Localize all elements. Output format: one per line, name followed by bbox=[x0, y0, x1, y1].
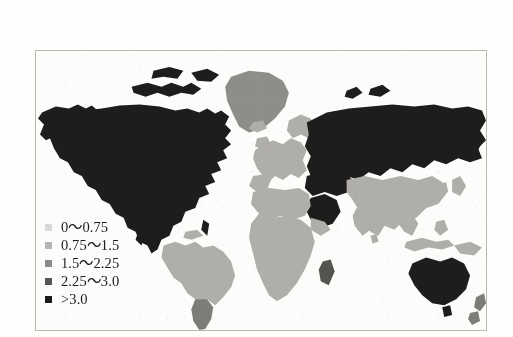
legend-item: 0.75～1.5 bbox=[42, 237, 119, 254]
region-russia-eurasia bbox=[305, 85, 486, 182]
legend-item-label: 1.5～2.25 bbox=[61, 256, 119, 271]
legend-item: 2.25～3.0 bbox=[42, 273, 119, 290]
map-frame: 0～0.75 0.75～1.5 1.5～2.25 2.25～3.0 >3.0 bbox=[35, 50, 487, 331]
region-florida bbox=[201, 220, 209, 236]
region-new-guinea bbox=[454, 242, 482, 256]
figure-container: 0～0.75 0.75～1.5 1.5～2.25 2.25～3.0 >3.0 bbox=[0, 0, 513, 337]
region-indonesia bbox=[404, 238, 454, 252]
region-arctic-islands bbox=[132, 83, 202, 97]
legend-swatch-icon bbox=[45, 296, 52, 303]
region-brazil bbox=[161, 242, 235, 306]
legend-item: 1.5～2.25 bbox=[42, 255, 119, 272]
legend-swatch-icon bbox=[45, 242, 52, 249]
region-southern-cone bbox=[191, 299, 213, 330]
region-novaya-zemlya bbox=[345, 87, 363, 99]
region-madagascar bbox=[319, 260, 335, 286]
legend-item: 0～0.75 bbox=[42, 219, 119, 236]
region-caribbean bbox=[183, 230, 203, 240]
map-legend: 0～0.75 0.75～1.5 1.5～2.25 2.25～3.0 >3.0 bbox=[42, 219, 119, 308]
region-asia bbox=[347, 176, 482, 255]
region-arctic-russia-islands bbox=[369, 85, 391, 97]
legend-item-label: >3.0 bbox=[61, 292, 88, 307]
legend-swatch-icon bbox=[45, 260, 52, 267]
region-arctic-island-2 bbox=[151, 67, 183, 79]
region-new-zealand-south bbox=[468, 311, 480, 325]
legend-item: >3.0 bbox=[42, 291, 119, 308]
legend-item-label: 2.25～3.0 bbox=[61, 274, 119, 289]
region-philippines bbox=[434, 220, 448, 236]
region-south-america bbox=[161, 242, 235, 330]
legend-swatch-icon bbox=[45, 224, 52, 231]
legend-item-label: 0.75～1.5 bbox=[61, 238, 119, 253]
region-sri-lanka bbox=[371, 234, 379, 244]
legend-swatch-icon bbox=[45, 278, 52, 285]
region-tasmania bbox=[442, 305, 452, 317]
region-australia bbox=[408, 258, 470, 318]
legend-item-label: 0～0.75 bbox=[61, 220, 108, 235]
region-sub-saharan-africa bbox=[249, 214, 315, 301]
region-new-zealand bbox=[468, 293, 486, 325]
region-arctic-island-3 bbox=[191, 69, 219, 82]
region-japan bbox=[452, 176, 466, 196]
